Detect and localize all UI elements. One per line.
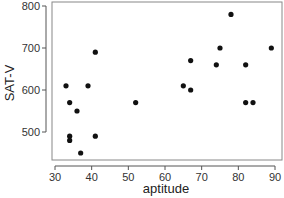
data-point [217, 45, 222, 50]
data-point [243, 62, 248, 67]
data-point [93, 50, 98, 55]
x-tick-label: 70 [196, 171, 208, 183]
y-axis: 500600700800 [22, 0, 46, 138]
x-tick-label: 80 [232, 171, 244, 183]
data-points [63, 12, 274, 156]
data-point [214, 62, 219, 67]
scatter-plot: 30405060708090 500600700800 aptitude SAT… [0, 0, 284, 198]
x-tick-label: 50 [122, 171, 134, 183]
data-point [250, 100, 255, 105]
y-axis-title: SAT-V [2, 64, 17, 101]
data-point [63, 83, 68, 88]
data-point [188, 87, 193, 92]
data-point [78, 150, 83, 155]
data-point [188, 58, 193, 63]
data-point [133, 100, 138, 105]
data-point [67, 138, 72, 143]
y-tick-label: 700 [22, 42, 40, 54]
data-point [243, 100, 248, 105]
data-point [228, 12, 233, 17]
data-point [269, 45, 274, 50]
data-point [93, 134, 98, 139]
x-axis-title: aptitude [143, 181, 189, 196]
y-tick-label: 500 [22, 126, 40, 138]
data-point [181, 83, 186, 88]
data-point [85, 83, 90, 88]
data-point [67, 100, 72, 105]
x-tick-label: 40 [86, 171, 98, 183]
x-tick-label: 90 [269, 171, 281, 183]
y-tick-label: 600 [22, 84, 40, 96]
x-tick-label: 30 [49, 171, 61, 183]
data-point [74, 108, 79, 113]
y-tick-label: 800 [22, 0, 40, 12]
plot-frame [52, 2, 282, 160]
